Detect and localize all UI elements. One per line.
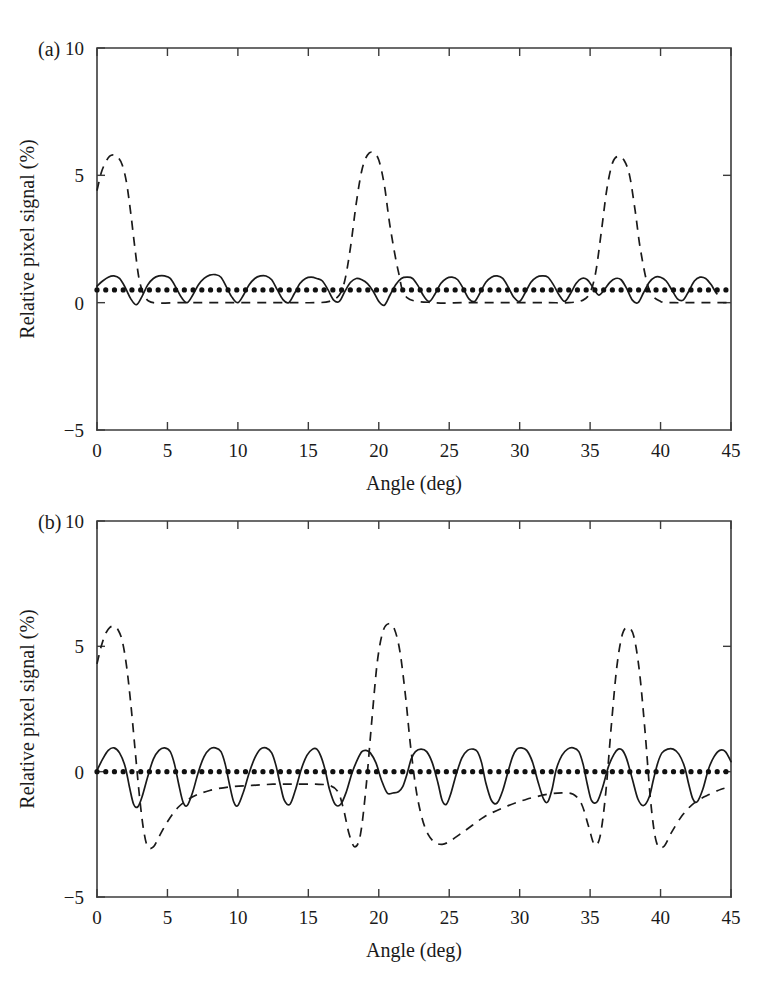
data-marker [444, 769, 449, 774]
data-marker [662, 769, 667, 774]
data-marker [383, 287, 388, 292]
data-marker [391, 287, 396, 292]
data-marker [461, 769, 466, 774]
data-marker [706, 287, 711, 292]
data-marker [487, 287, 492, 292]
data-marker [540, 287, 545, 292]
dotted-series [94, 769, 728, 774]
data-marker [182, 769, 187, 774]
data-marker [505, 287, 510, 292]
data-marker [374, 769, 379, 774]
data-marker [217, 287, 222, 292]
data-marker [339, 769, 344, 774]
data-marker [138, 287, 143, 292]
solid-series-line [97, 274, 717, 305]
data-marker [322, 769, 327, 774]
data-marker [592, 769, 597, 774]
data-marker [112, 287, 117, 292]
data-marker [671, 287, 676, 292]
data-marker [156, 769, 161, 774]
data-marker [225, 769, 230, 774]
x-tick-label: 25 [440, 440, 459, 461]
x-tick-label: 10 [228, 440, 247, 461]
data-marker [208, 287, 213, 292]
data-marker [435, 769, 440, 774]
data-marker [514, 769, 519, 774]
dashed-series-line [97, 624, 731, 849]
data-marker [453, 287, 458, 292]
data-marker [496, 769, 501, 774]
data-marker [418, 287, 423, 292]
data-marker [365, 287, 370, 292]
data-marker [147, 287, 152, 292]
x-tick-label: 40 [651, 907, 670, 928]
chart-svg-b: 051015202530354045−50510(b)Relative pixe… [0, 473, 771, 989]
data-marker [173, 769, 178, 774]
data-marker [680, 769, 685, 774]
x-tick-label: 0 [92, 907, 102, 928]
data-marker [138, 769, 143, 774]
data-marker [566, 769, 571, 774]
data-marker [269, 769, 274, 774]
data-marker [304, 287, 309, 292]
chart-panel-a: 051015202530354045−50510(a)Relative pixe… [0, 0, 771, 500]
data-marker [356, 769, 361, 774]
data-marker [584, 287, 589, 292]
data-marker [522, 287, 527, 292]
data-marker [435, 287, 440, 292]
data-marker [418, 769, 423, 774]
data-marker [557, 769, 562, 774]
data-marker [313, 769, 318, 774]
data-marker [94, 769, 99, 774]
chart-panel-b: 051015202530354045−50510(b)Relative pixe… [0, 473, 771, 989]
data-marker [601, 769, 606, 774]
data-marker [522, 769, 527, 774]
data-marker [461, 287, 466, 292]
data-marker [295, 287, 300, 292]
data-marker [697, 769, 702, 774]
data-marker [322, 287, 327, 292]
data-marker [688, 769, 693, 774]
data-marker [601, 287, 606, 292]
x-tick-label: 0 [92, 440, 102, 461]
data-marker [619, 287, 624, 292]
data-marker [549, 769, 554, 774]
data-marker [287, 287, 292, 292]
data-marker [470, 287, 475, 292]
data-marker [619, 769, 624, 774]
data-marker [575, 769, 580, 774]
data-marker [156, 287, 161, 292]
data-marker [269, 287, 274, 292]
data-marker [592, 287, 597, 292]
data-marker [287, 769, 292, 774]
figure-container: 051015202530354045−50510(a)Relative pixe… [0, 0, 771, 989]
data-marker [243, 287, 248, 292]
data-marker [409, 769, 414, 774]
x-tick-label: 30 [510, 907, 529, 928]
data-marker [121, 287, 126, 292]
x-tick-label: 25 [440, 907, 459, 928]
plot-frame [97, 48, 731, 430]
data-marker [723, 287, 728, 292]
data-marker [566, 287, 571, 292]
data-marker [470, 769, 475, 774]
y-tick-label: 10 [65, 511, 84, 532]
data-marker [610, 287, 615, 292]
data-marker [653, 769, 658, 774]
data-marker [575, 287, 580, 292]
data-marker [252, 287, 257, 292]
x-tick-label: 30 [510, 440, 529, 461]
data-marker [487, 769, 492, 774]
data-marker [103, 287, 108, 292]
plot-frame [97, 521, 731, 897]
data-marker [374, 287, 379, 292]
data-marker [636, 769, 641, 774]
data-marker [540, 769, 545, 774]
dotted-series [94, 287, 728, 292]
y-axis-title: Relative pixel signal (%) [16, 139, 39, 338]
x-tick-label: 40 [651, 440, 670, 461]
data-marker [304, 769, 309, 774]
chart-svg-a: 051015202530354045−50510(a)Relative pixe… [0, 0, 771, 500]
data-marker [531, 287, 536, 292]
x-tick-label: 20 [369, 907, 388, 928]
